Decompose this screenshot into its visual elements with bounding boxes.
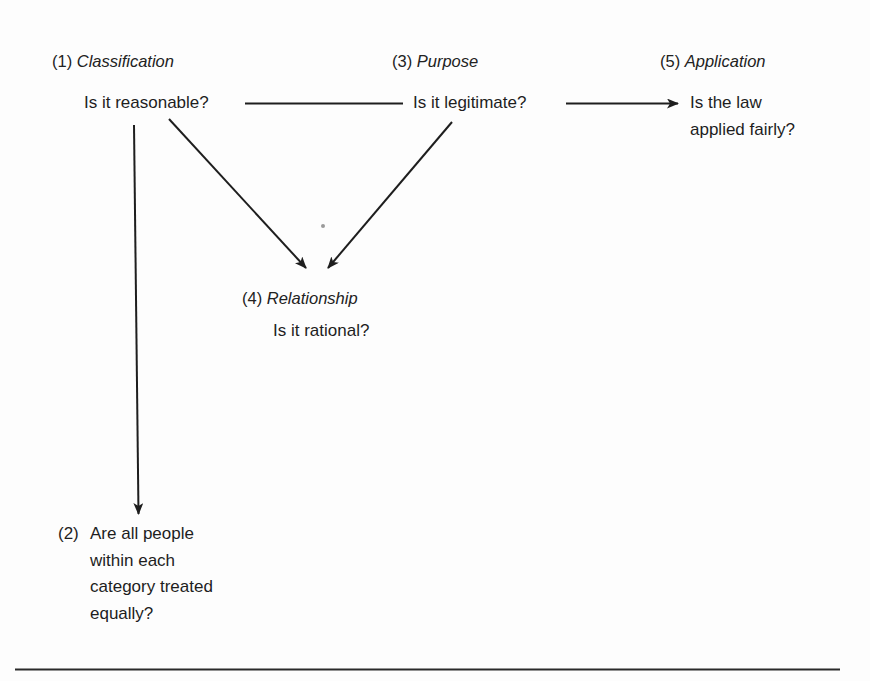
diagram-canvas: (1) Classification Is it reasonable? (3)…	[0, 0, 870, 681]
node-application-question: Is the law applied fairly?	[690, 89, 795, 143]
question-line: within each	[90, 548, 213, 575]
node-purpose-question: Is it legitimate?	[413, 90, 526, 116]
edge-classification-equal-treatment-arrow	[134, 125, 139, 514]
node-number: (2)	[58, 521, 79, 548]
node-number: (3)	[392, 52, 412, 70]
node-title: Classification	[77, 52, 174, 70]
node-relationship-label: (4) Relationship	[242, 286, 358, 310]
edge-classification-relationship-arrow	[169, 119, 306, 268]
node-title: Purpose	[417, 52, 478, 70]
node-number: (1)	[52, 52, 72, 70]
node-application-label: (5) Application	[660, 49, 766, 73]
node-title: Application	[685, 52, 766, 70]
question-line: equally?	[90, 601, 213, 628]
edge-purpose-relationship-arrow	[328, 122, 452, 268]
question-line: Are all people	[90, 521, 213, 548]
node-purpose-label: (3) Purpose	[392, 49, 478, 73]
stray-dot	[321, 224, 325, 228]
node-number: (5)	[660, 52, 680, 70]
node-equal-treatment-question: Are all people within each category trea…	[90, 521, 213, 627]
node-relationship-question: Is it rational?	[273, 318, 369, 344]
node-equal-treatment: (2) Are all people within each category …	[58, 521, 278, 631]
node-title: Relationship	[267, 289, 358, 307]
node-number: (4)	[242, 289, 262, 307]
node-classification-label: (1) Classification	[52, 49, 174, 73]
node-classification-question: Is it reasonable?	[84, 90, 209, 116]
question-line: applied fairly?	[690, 116, 795, 143]
question-line: category treated	[90, 574, 213, 601]
question-line: Is the law	[690, 89, 795, 116]
